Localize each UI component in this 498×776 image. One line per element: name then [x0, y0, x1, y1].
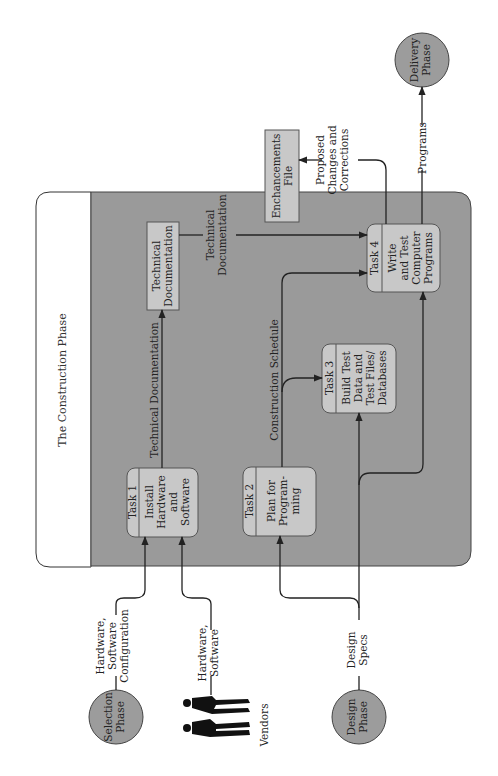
svg-text:ming: ming — [289, 487, 301, 514]
svg-text:Install: Install — [143, 485, 155, 519]
svg-text:Programs: Programs — [416, 122, 428, 174]
svg-text:Technical Documentation: Technical Documentation — [148, 322, 160, 458]
delivery-phase-circle: Delivery Phase — [395, 33, 449, 87]
svg-text:Task 4: Task 4 — [368, 241, 380, 276]
svg-text:Documentation: Documentation — [162, 225, 174, 307]
design-phase-circle: Design Phase — [332, 690, 386, 744]
svg-text:Proposed: Proposed — [314, 135, 326, 185]
svg-text:Phase: Phase — [420, 44, 432, 76]
svg-text:Design: Design — [345, 631, 357, 668]
task-2-box: Task 2 Plan for Program- ming — [243, 467, 316, 536]
svg-text:Phase: Phase — [357, 701, 369, 733]
svg-text:Program-: Program- — [277, 476, 289, 526]
svg-text:Design: Design — [345, 698, 357, 735]
vendors-label: Vendors — [258, 703, 270, 747]
svg-text:Task 1: Task 1 — [126, 485, 138, 519]
svg-text:Hardware: Hardware — [155, 475, 167, 529]
svg-text:Documentation: Documentation — [216, 194, 228, 276]
task-4-box: Task 4 Write and Test Computer Programs — [367, 224, 440, 292]
vendors-icon — [183, 696, 250, 737]
svg-text:Technical: Technical — [204, 209, 216, 260]
svg-text:Hardware,: Hardware, — [196, 625, 208, 682]
svg-text:Databases: Databases — [376, 350, 388, 405]
svg-text:Computer: Computer — [410, 230, 422, 284]
svg-text:File: File — [282, 166, 294, 186]
svg-text:Write: Write — [386, 243, 398, 272]
svg-text:Plan for: Plan for — [265, 479, 277, 522]
svg-text:Software: Software — [179, 478, 191, 526]
svg-text:Changes and: Changes and — [326, 125, 338, 195]
svg-text:and Test: and Test — [398, 235, 410, 281]
svg-text:Hardware,: Hardware, — [94, 618, 106, 675]
svg-text:Task 3: Task 3 — [323, 361, 335, 395]
svg-text:and: and — [167, 492, 179, 512]
svg-text:Software: Software — [208, 629, 220, 677]
selection-phase-circle: Selection Phase — [89, 690, 143, 744]
panel-title: The Construction Phase — [56, 313, 69, 446]
svg-text:Configuration: Configuration — [118, 609, 130, 683]
svg-text:Software: Software — [106, 622, 118, 670]
svg-text:Construction Schedule: Construction Schedule — [268, 319, 280, 441]
svg-text:Enchancements: Enchancements — [270, 134, 282, 219]
svg-text:Data and: Data and — [352, 354, 364, 403]
task-1-box: Task 1 Install Hardware and Software — [126, 468, 198, 537]
svg-text:Build Test: Build Test — [340, 351, 352, 405]
svg-text:Selection: Selection — [102, 692, 114, 742]
svg-text:Delivery: Delivery — [408, 38, 420, 83]
technical-documentation-store: Technical Documentation — [147, 222, 179, 310]
svg-text:Task 2: Task 2 — [243, 484, 255, 518]
svg-text:Phase: Phase — [114, 701, 126, 733]
svg-text:Technical: Technical — [150, 240, 162, 291]
svg-text:Test Files/: Test Files/ — [364, 350, 376, 405]
construction-phase-diagram: The Construction Phase Technical Documen… — [0, 0, 498, 776]
enhancements-file-store: Enchancements File — [265, 130, 299, 222]
svg-text:Specs: Specs — [357, 634, 369, 665]
svg-text:Programs: Programs — [422, 232, 434, 284]
svg-text:Corrections: Corrections — [338, 129, 350, 192]
task-3-box: Task 3 Build Test Data and Test Files/ D… — [322, 344, 396, 413]
